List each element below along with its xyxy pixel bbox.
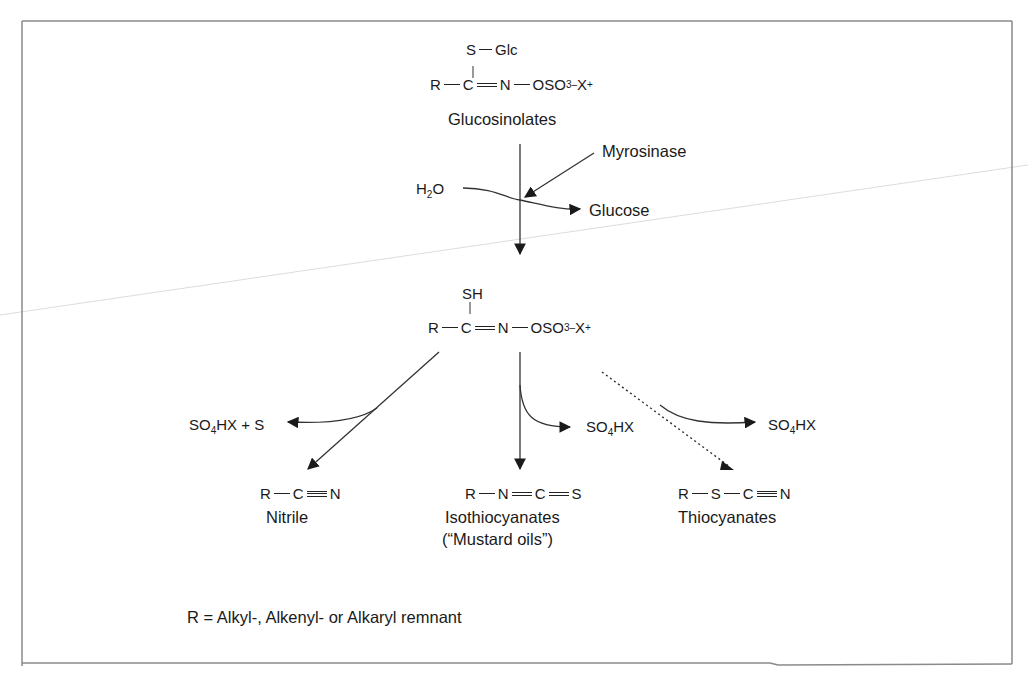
thiocyanate-arrowhead [720, 461, 734, 470]
sulfur-atom: S [466, 42, 476, 57]
byproduct-thiocyanate: SO4HX [768, 417, 816, 432]
myrosinase-label: Myrosinase [602, 143, 686, 160]
thiocyanate-label: Thiocyanates [678, 509, 776, 526]
glucose-label: Glucose [589, 202, 650, 219]
oso3-group: OSO [531, 320, 564, 335]
glucosinolate-top-group: S Glc [466, 42, 518, 57]
myrosinase-arrow [525, 153, 594, 197]
intermediate-formula: R C N OSO3– X+ [428, 320, 591, 335]
n-atom: N [500, 77, 511, 92]
isothiocyanate-byproduct-arrow [520, 385, 570, 427]
diagram-canvas [0, 0, 1028, 682]
isothiocyanate-formula: R N C S [465, 486, 582, 501]
r-atom: R [428, 320, 439, 335]
thiocyanate-byproduct-arrow [660, 405, 755, 423]
n-atom: N [498, 320, 509, 335]
glucose-group: Glc [495, 42, 518, 57]
thiocyanate-formula: R S C N [678, 486, 791, 501]
scan-artifact-line [0, 165, 1028, 315]
x-cation: X [575, 320, 585, 335]
nitrile-label: Nitrile [266, 509, 308, 526]
water-glucose-arrow [463, 188, 580, 209]
isothiocyanate-sublabel: (“Mustard oils”) [442, 531, 553, 548]
water-label: H2O [416, 181, 444, 196]
c-atom: C [463, 77, 474, 92]
c-atom: C [461, 320, 472, 335]
footnote: R = Alkyl-, Alkenyl- or Alkaryl remnant [187, 609, 462, 626]
glucosinolates-label: Glucosinolates [448, 111, 556, 128]
x-cation: X [577, 77, 587, 92]
r-atom: R [430, 77, 441, 92]
isothiocyanate-label: Isothiocyanates [445, 509, 560, 526]
oso3-group: OSO [533, 77, 566, 92]
nitrile-byproduct-arrow [288, 408, 377, 422]
glucosinolate-formula: R C N OSO3– X+ [430, 77, 593, 92]
intermediate-top-group: SH [462, 286, 483, 301]
nitrile-formula: R C N [260, 486, 341, 501]
byproduct-isothiocyanate: SO4HX [586, 419, 634, 434]
byproduct-nitrile: SO4HX + S [189, 417, 264, 432]
